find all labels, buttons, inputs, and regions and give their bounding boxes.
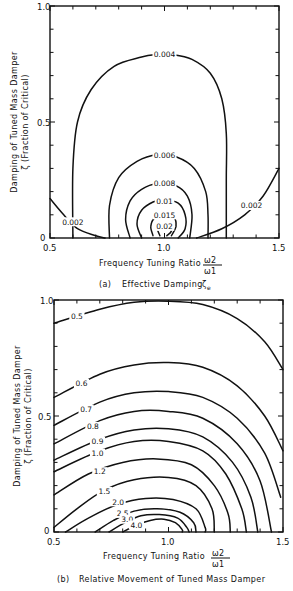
- xtick-a-left: 0.5: [43, 243, 57, 253]
- contour-label: 1.5: [98, 487, 110, 496]
- xtick-b-mid: 1.0: [161, 537, 175, 547]
- contour-label: 2.0: [112, 498, 124, 507]
- xlabel-b-den: ω1: [212, 560, 225, 569]
- xtick-b-right: 1.5: [276, 537, 290, 547]
- contour-label: 0.006: [154, 151, 176, 160]
- contour-label: 1.2: [94, 467, 106, 476]
- contour-label: 0.01: [156, 197, 173, 206]
- contour-label: 1.0: [92, 449, 104, 458]
- contour-label: 0.002: [62, 218, 84, 227]
- ytick-b-bottom: 0: [44, 526, 49, 536]
- xtick-a-right: 1.5: [272, 243, 286, 253]
- figure: 0.0040.0060.0080.010.0150.020.0020.002 1…: [0, 0, 293, 591]
- panel-b-relative-movement: 0.50.60.70.80.91.01.21.52.02.53.04.0 1.0…: [13, 296, 290, 584]
- contour-label: 4.0: [130, 521, 142, 530]
- ylabel-a-line2: ζ (Fraction of Critical): [21, 74, 30, 169]
- ytick-a-mid: 0.5: [37, 118, 51, 128]
- contour-label: 0.004: [154, 50, 176, 59]
- xlabel-a-num: ω2: [204, 256, 217, 265]
- ylabel-a-line1: Damping of Tuned Mass Damper: [10, 51, 19, 193]
- contours-b: 0.50.60.70.80.91.01.21.52.02.53.04.0: [54, 301, 283, 532]
- contour-line-0_5: [54, 301, 283, 370]
- contour-label: 0.7: [80, 405, 92, 414]
- plot-frame-b: [54, 300, 283, 532]
- contour-label: 0.6: [76, 379, 88, 388]
- xtick-b-left: 0.5: [47, 537, 61, 547]
- caption-b-text: Relative Movement of Tuned Mass Damper: [79, 575, 266, 584]
- contour-line-0_002: [197, 168, 279, 238]
- panel-a-effective-damping: 0.0040.0060.0080.010.0150.020.0020.002 1…: [10, 2, 286, 291]
- contour-line-0_004: [73, 54, 227, 238]
- contour-label: 0.015: [154, 211, 176, 220]
- ytick-b-mid: 0.5: [38, 412, 52, 422]
- caption-a-text: Effective Damping: [122, 280, 203, 289]
- contour-line-0_9: [54, 428, 258, 532]
- ylabel-a: Damping of Tuned Mass Damper ζ (Fraction…: [10, 51, 30, 193]
- caption-a-sub: e: [207, 284, 211, 291]
- ylabel-b: Damping of Tuned Mass Damper ζ (Fraction…: [13, 345, 33, 487]
- contour-label: 0.8: [87, 422, 99, 431]
- ylabel-b-line1: Damping of Tuned Mass Damper: [13, 345, 22, 487]
- ytick-a-top: 1.0: [37, 2, 51, 12]
- ticks-b: [54, 300, 283, 532]
- contour-line-1_0: [54, 440, 246, 532]
- ytick-b-top: 1.0: [40, 296, 54, 306]
- xlabel-b: Frequency Tuning Ratio: [103, 552, 205, 561]
- xlabel-a: Frequency Tuning Ratio: [99, 259, 201, 268]
- ytick-a-bottom: 0: [40, 233, 45, 243]
- ylabel-b-line2: ζ (Fraction of Critical): [24, 368, 33, 463]
- xtick-a-mid: 1.0: [157, 243, 171, 253]
- contours-a: 0.0040.0060.0080.010.0150.020.0020.002: [50, 50, 279, 238]
- contour-label: 0.02: [156, 222, 173, 231]
- contour-label: 0.9: [92, 437, 104, 446]
- caption-b-prefix: (b): [57, 575, 70, 584]
- contour-label: 0.5: [71, 312, 83, 321]
- caption-a-prefix: (a): [99, 280, 111, 289]
- contour-label: 0.002: [241, 201, 263, 210]
- xlabel-b-num: ω2: [212, 549, 225, 558]
- contour-label: 0.008: [154, 179, 176, 188]
- xlabel-a-den: ω1: [204, 267, 217, 276]
